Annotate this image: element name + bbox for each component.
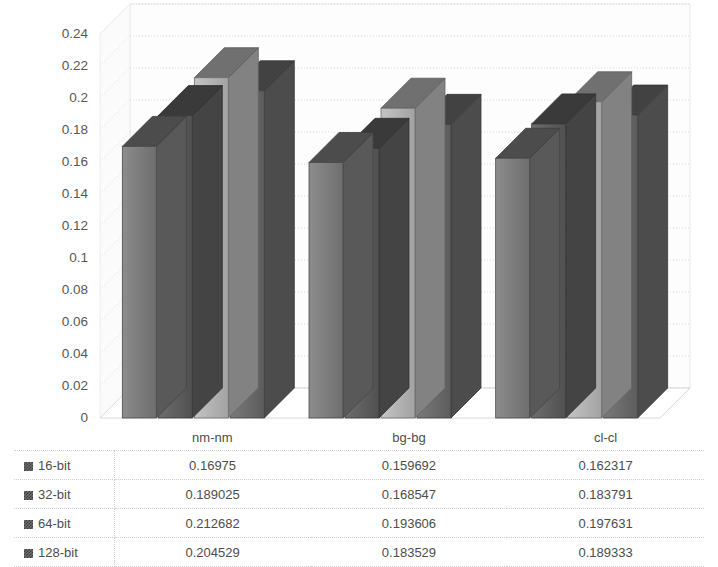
table-header-row: nm-nm bg-bg cl-cl	[14, 424, 704, 451]
table-corner-cell	[14, 424, 114, 451]
y-axis-tick-0-16: 0.16	[28, 155, 88, 169]
plot-area: 0.240.220.20.180.160.140.120.10.080.060.…	[0, 0, 718, 425]
y-axis-tick-0-06: 0.06	[28, 315, 88, 329]
plot-svg	[0, 0, 718, 425]
y-axis-tick-0-12: 0.12	[28, 219, 88, 233]
y-axis-tick-0-1: 0.1	[28, 251, 88, 265]
legend-swatch-icon	[24, 520, 33, 529]
series-label: 64-bit	[38, 516, 71, 531]
table-cell-16-bit-nm-nm: 0.16975	[114, 451, 311, 480]
y-axis-tick-0-14: 0.14	[28, 187, 88, 201]
y-axis-tick-0-02: 0.02	[28, 379, 88, 393]
bar-chart-3d: 0.240.220.20.180.160.140.120.10.080.060.…	[0, 0, 718, 567]
legend-swatch-icon	[24, 491, 33, 500]
table-row: 128-bit0.2045290.1835290.189333	[14, 538, 704, 567]
y-axis-tick-labels: 0.240.220.20.180.160.140.120.10.080.060.…	[22, 0, 88, 425]
table-row: 16-bit0.169750.1596920.162317	[14, 451, 704, 480]
table-cell-64-bit-nm-nm: 0.212682	[114, 509, 311, 538]
table-cell-64-bit-cl-cl: 0.197631	[507, 509, 704, 538]
table-cell-128-bit-bg-bg: 0.183529	[311, 538, 508, 567]
series-label: 128-bit	[38, 545, 78, 560]
table-cell-16-bit-bg-bg: 0.159692	[311, 451, 508, 480]
column-header-bg-bg: bg-bg	[311, 424, 508, 451]
series-legend-128-bit: 128-bit	[14, 538, 114, 567]
table-row: 32-bit0.1890250.1685470.183791	[14, 480, 704, 509]
y-axis-tick-0-22: 0.22	[28, 59, 88, 73]
table-cell-128-bit-cl-cl: 0.189333	[507, 538, 704, 567]
series-label: 16-bit	[38, 458, 71, 473]
table-body: 16-bit0.169750.1596920.16231732-bit0.189…	[14, 451, 704, 567]
legend-swatch-icon	[24, 462, 33, 471]
column-header-nm-nm: nm-nm	[114, 424, 311, 451]
y-axis-tick-0-08: 0.08	[28, 283, 88, 297]
table-cell-32-bit-nm-nm: 0.189025	[114, 480, 311, 509]
y-axis-tick-0-18: 0.18	[28, 123, 88, 137]
table-cell-128-bit-nm-nm: 0.204529	[114, 538, 311, 567]
data-table: nm-nm bg-bg cl-cl 16-bit0.169750.1596920…	[14, 424, 704, 567]
table-cell-32-bit-cl-cl: 0.183791	[507, 480, 704, 509]
series-legend-32-bit: 32-bit	[14, 480, 114, 509]
column-header-cl-cl: cl-cl	[507, 424, 704, 451]
y-axis-tick-0-04: 0.04	[28, 347, 88, 361]
table-cell-32-bit-bg-bg: 0.168547	[311, 480, 508, 509]
y-axis-tick-0-2: 0.2	[28, 91, 88, 105]
table-cell-16-bit-cl-cl: 0.162317	[507, 451, 704, 480]
legend-swatch-icon	[24, 549, 33, 558]
y-axis-tick-0: 0	[28, 411, 88, 425]
bars-group	[122, 48, 667, 418]
series-legend-16-bit: 16-bit	[14, 451, 114, 480]
table-cell-64-bit-bg-bg: 0.193606	[311, 509, 508, 538]
table-header: nm-nm bg-bg cl-cl	[14, 424, 704, 451]
series-label: 32-bit	[38, 487, 71, 502]
series-legend-64-bit: 64-bit	[14, 509, 114, 538]
y-axis-tick-0-24: 0.24	[28, 27, 88, 41]
table-row: 64-bit0.2126820.1936060.197631	[14, 509, 704, 538]
